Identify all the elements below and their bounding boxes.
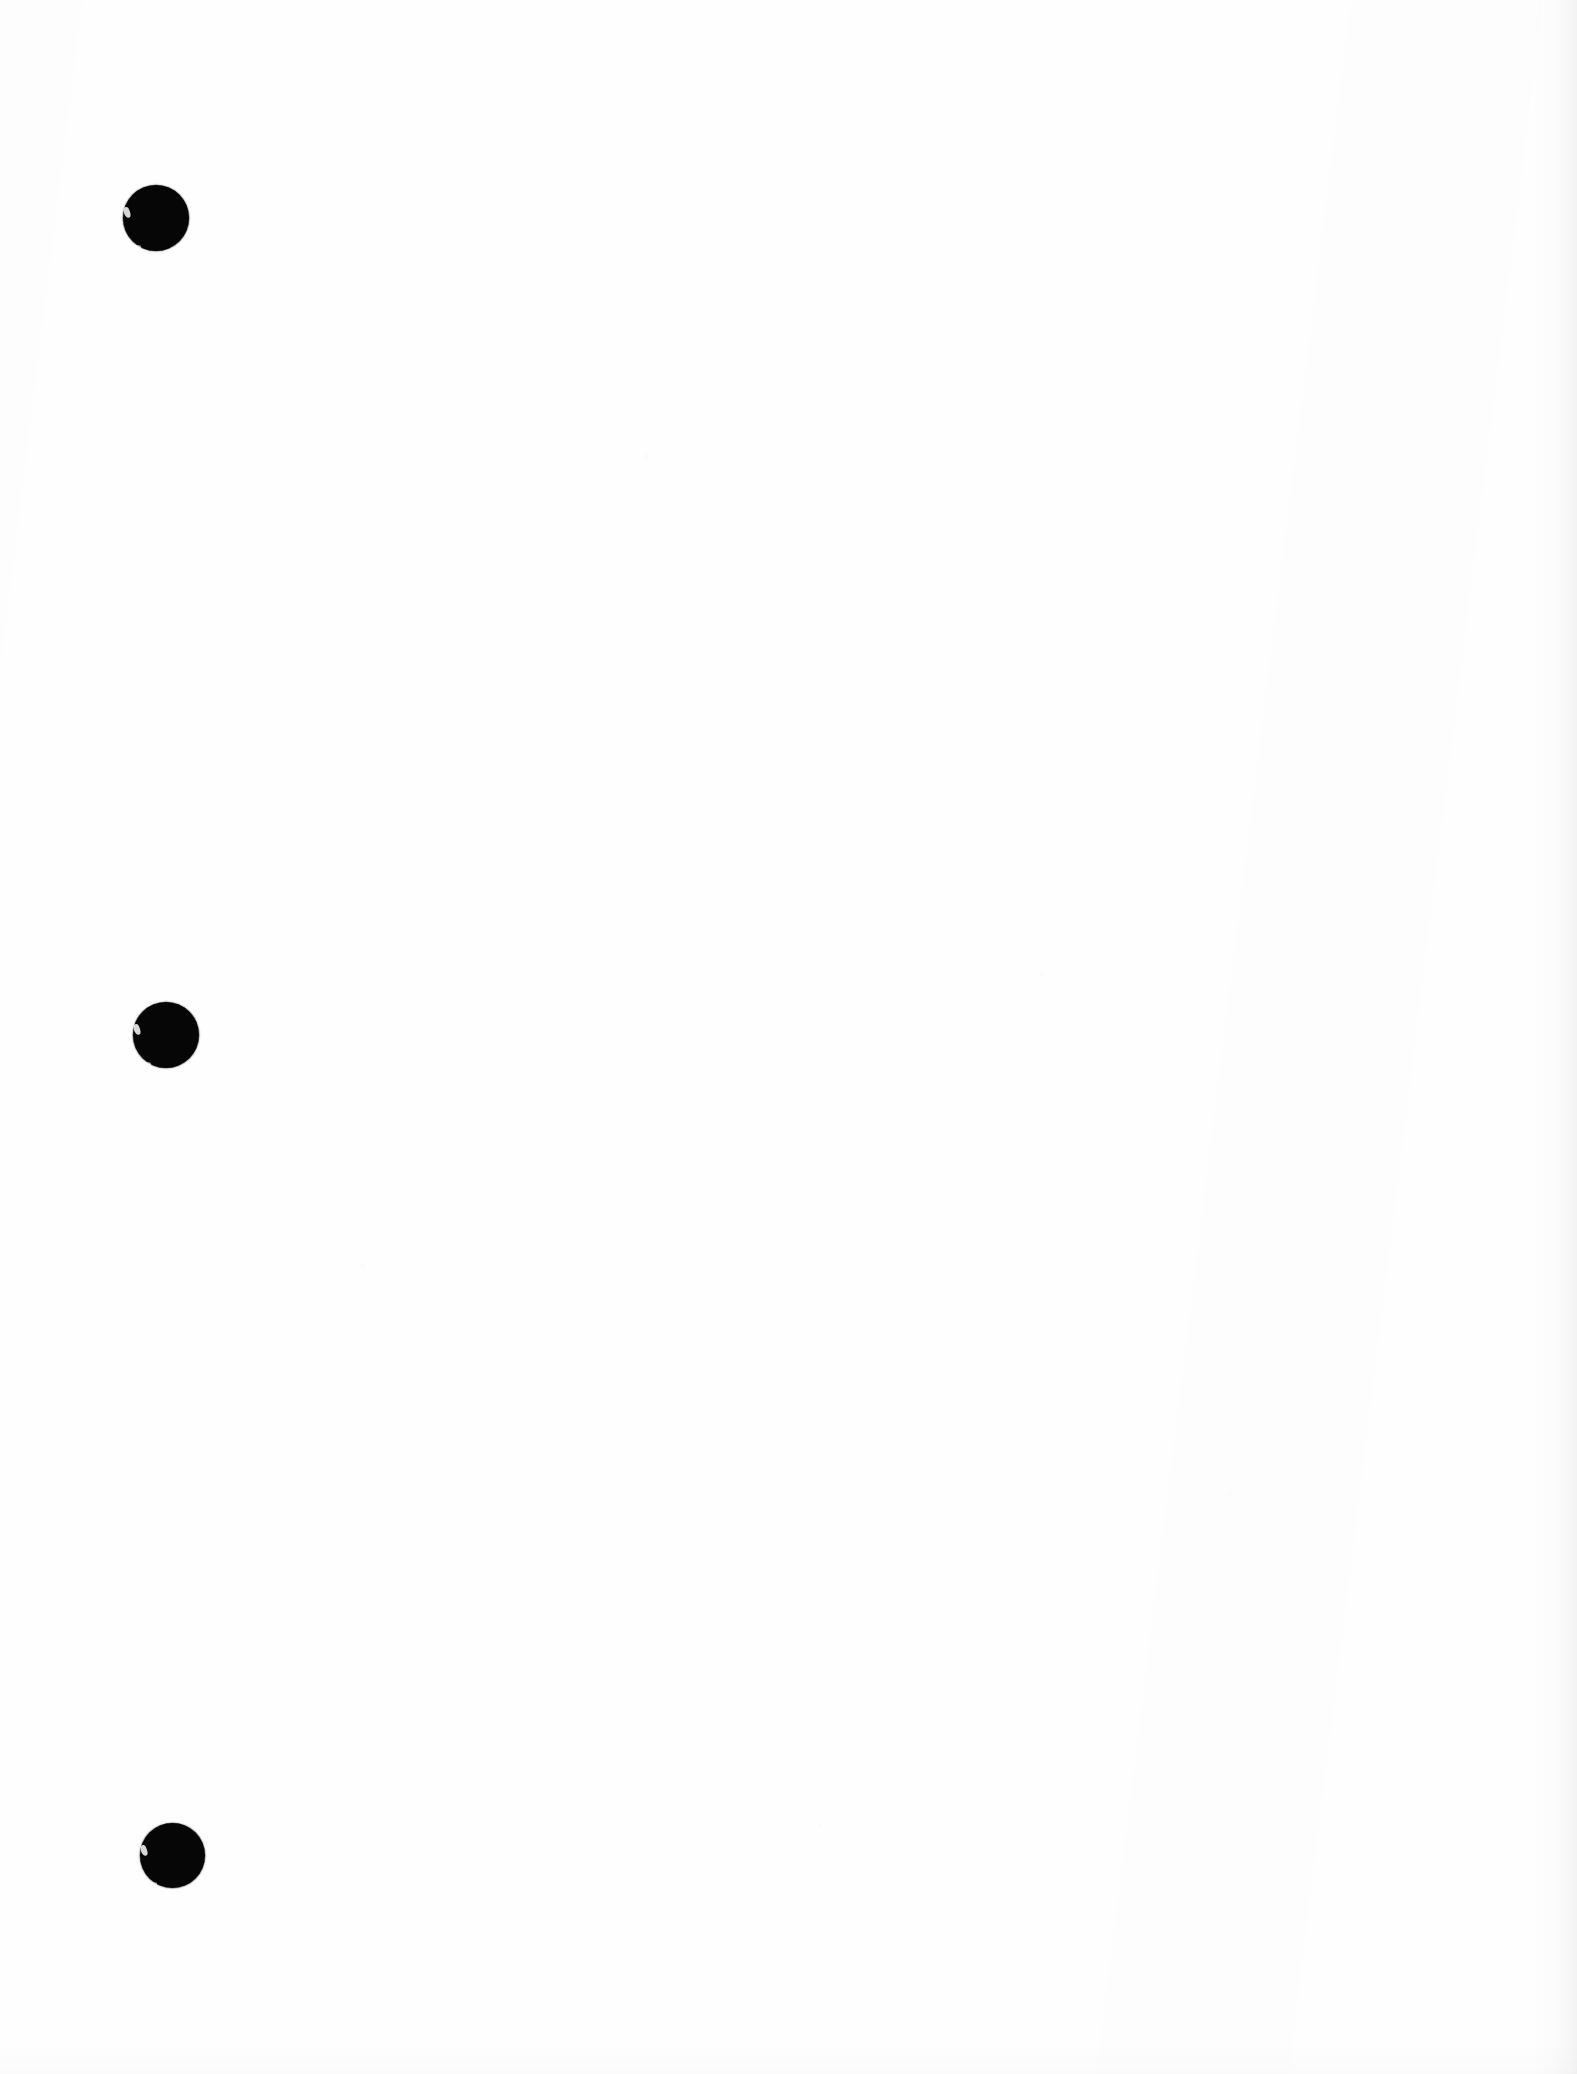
page-right-edge-shadow: [1531, 0, 1577, 2074]
filled-circle-bullet-icon: [123, 185, 189, 251]
scanned-page: [0, 0, 1577, 2074]
filled-circle-bullet-icon: [140, 1823, 205, 1888]
page-bottom-edge-shadow: [0, 2040, 1577, 2074]
bullet-item-content-2: [230, 1000, 1457, 1070]
filled-circle-bullet-icon: [133, 1002, 199, 1068]
bullet-item-content-3: [230, 1821, 1457, 1891]
bullet-item-content-1: [230, 183, 1457, 253]
